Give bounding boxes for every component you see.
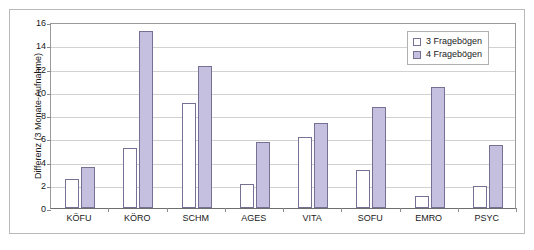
y-axis-tick-label: 12 xyxy=(28,65,46,74)
chart-legend: 3 Fragebögen4 Fragebögen xyxy=(407,31,489,65)
bar xyxy=(240,184,254,208)
x-axis-tick-label: VITA xyxy=(283,213,341,223)
bar xyxy=(65,179,79,208)
x-axis-tick-label: SOFU xyxy=(341,213,399,223)
bar xyxy=(298,137,312,208)
y-axis-tick-label: 2 xyxy=(28,181,46,190)
legend-swatch-icon xyxy=(413,38,421,46)
bar xyxy=(182,103,196,208)
y-axis-title-container: Differenz (3 Monate-Aufnahme) xyxy=(12,23,26,209)
bar xyxy=(473,186,487,208)
x-axis-tick-label: AGES xyxy=(225,213,283,223)
legend-swatch-icon xyxy=(413,51,421,59)
x-axis-tick-label: KÖRO xyxy=(108,213,166,223)
y-axis-tick-label: 14 xyxy=(28,42,46,51)
bar xyxy=(314,123,328,208)
legend-item-label: 4 Fragebögen xyxy=(426,50,482,59)
x-axis-tick-label: PSYC xyxy=(458,213,516,223)
bar xyxy=(489,145,503,208)
bar xyxy=(81,167,95,208)
bar xyxy=(415,196,429,208)
y-axis-tick-label: 8 xyxy=(28,112,46,121)
bar xyxy=(123,148,137,208)
x-axis-tick-label: EMRO xyxy=(400,213,458,223)
bar xyxy=(256,142,270,208)
bar xyxy=(356,170,370,208)
y-axis-tick-label: 10 xyxy=(28,88,46,97)
x-axis-tick-label: SCHM xyxy=(167,213,225,223)
chart-figure: Differenz (3 Monate-Aufnahme) 0246810121… xyxy=(0,0,534,250)
bar xyxy=(372,107,386,208)
x-axis-tick-label: KÖFU xyxy=(50,213,108,223)
bar xyxy=(431,87,445,208)
x-axis-tick-mark xyxy=(516,208,517,212)
y-axis-tick-label: 6 xyxy=(28,135,46,144)
legend-item: 4 Fragebögen xyxy=(413,48,482,61)
legend-item-label: 3 Fragebögen xyxy=(426,37,482,46)
bar xyxy=(139,31,153,208)
y-axis-tick-label: 4 xyxy=(28,158,46,167)
bar xyxy=(198,66,212,208)
y-axis-tick-label: 0 xyxy=(28,205,46,214)
y-axis-tick-label: 16 xyxy=(28,19,46,28)
legend-item: 3 Fragebögen xyxy=(413,35,482,48)
